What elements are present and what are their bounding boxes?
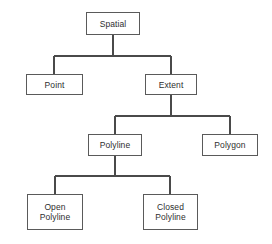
node-extent-label: Extent [159,80,184,90]
node-point[interactable]: Point [26,74,83,95]
node-point-label: Point [45,80,65,90]
diagram-canvas: Spatial Point Extent Polyline Polygon Op… [0,0,272,244]
node-spatial[interactable]: Spatial [86,12,140,35]
node-spatial-label: Spatial [100,19,127,29]
node-open-polyline[interactable]: Open Polyline [27,194,83,230]
node-polyline-label: Polyline [100,140,131,150]
node-polygon-label: Polygon [214,140,245,150]
node-polygon[interactable]: Polygon [202,134,258,156]
node-open-polyline-label: Open Polyline [40,202,71,222]
node-closed-polyline[interactable]: Closed Polyline [143,194,198,230]
node-extent[interactable]: Extent [145,74,197,95]
node-polyline[interactable]: Polyline [88,134,142,156]
node-closed-polyline-label: Closed Polyline [155,202,186,222]
